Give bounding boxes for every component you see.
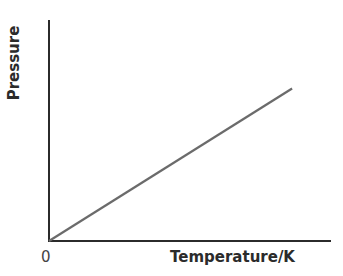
data-line xyxy=(49,89,292,241)
x-axis-title: Temperature/K xyxy=(170,248,295,266)
y-axis-title: Pressure xyxy=(3,18,25,108)
origin-tick-label: 0 xyxy=(41,248,51,266)
y-axis-title-text: Pressure xyxy=(5,26,23,101)
chart-canvas xyxy=(0,0,343,276)
